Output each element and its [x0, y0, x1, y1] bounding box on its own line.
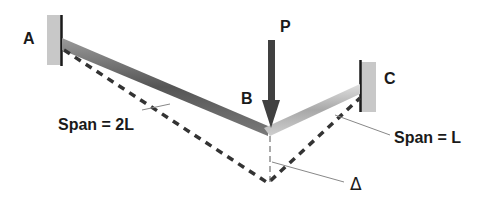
label-joint-b: B [241, 90, 253, 107]
beam-deflection-diagram: A C B P Span = 2L Span = L Δ [0, 0, 504, 203]
support-a [47, 15, 62, 66]
beam-right-l [264, 84, 360, 136]
label-span-left: Span = 2L [58, 116, 134, 133]
leader-span-right [335, 115, 390, 135]
label-support-a: A [23, 30, 35, 47]
support-c [361, 60, 377, 112]
wall-a-hatch [47, 15, 61, 65]
label-support-c: C [384, 70, 396, 87]
label-span-right: Span = L [394, 129, 461, 146]
arrow-shaft [268, 40, 275, 102]
load-arrow-p [262, 40, 280, 128]
leader-deflection [272, 162, 344, 182]
label-load-p: P [280, 18, 291, 35]
wall-c-hatch [361, 62, 376, 112]
label-deflection: Δ [350, 174, 362, 194]
